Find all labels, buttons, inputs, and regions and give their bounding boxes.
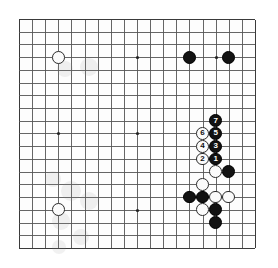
move-number-label: 6 bbox=[200, 129, 204, 137]
board-surface[interactable]: 7654321 bbox=[19, 19, 255, 248]
move-number-label: 2 bbox=[200, 155, 204, 163]
move-stone-6[interactable]: 6 bbox=[196, 127, 209, 140]
black-stone[interactable] bbox=[209, 216, 222, 229]
black-stone[interactable] bbox=[222, 51, 235, 64]
move-number-label: 3 bbox=[213, 142, 217, 150]
black-stone[interactable] bbox=[183, 51, 196, 64]
move-stone-3[interactable]: 3 bbox=[209, 140, 222, 153]
white-stone[interactable] bbox=[52, 51, 65, 64]
white-stone[interactable] bbox=[52, 203, 65, 216]
move-number-label: 5 bbox=[213, 129, 217, 137]
white-stone[interactable] bbox=[209, 165, 222, 178]
black-stone[interactable] bbox=[183, 191, 196, 204]
white-stone[interactable] bbox=[196, 178, 209, 191]
move-number-label: 1 bbox=[213, 155, 217, 163]
move-stone-5[interactable]: 5 bbox=[209, 127, 222, 140]
move-stone-2[interactable]: 2 bbox=[196, 153, 209, 166]
go-board-diagram: 7654321 bbox=[0, 0, 278, 268]
move-number-label: 7 bbox=[213, 117, 217, 125]
move-stone-4[interactable]: 4 bbox=[196, 140, 209, 153]
move-number-label: 4 bbox=[200, 142, 204, 150]
